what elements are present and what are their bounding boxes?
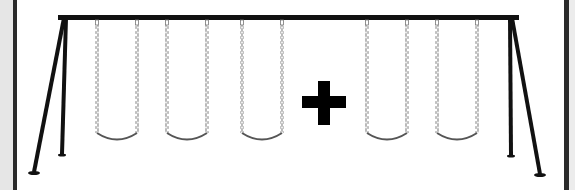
swing-3 [240, 20, 284, 140]
right-a-frame [507, 18, 546, 177]
swing-2 [165, 20, 209, 140]
swing-1 [95, 20, 139, 140]
plus-icon [302, 81, 346, 125]
top-beam [58, 15, 519, 20]
swing-5 [435, 20, 479, 140]
swing-4 [365, 20, 409, 140]
swing-set-illustration [0, 0, 575, 190]
left-a-frame [28, 18, 66, 175]
